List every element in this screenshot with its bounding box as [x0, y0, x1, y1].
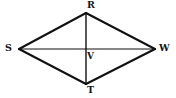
vertex-label-r: R	[87, 0, 95, 10]
vertex-label-w: W	[159, 43, 170, 53]
geometry-figure-canvas: R S W T V	[0, 0, 176, 98]
vertex-label-s: S	[5, 43, 12, 53]
vertex-label-t: T	[87, 85, 94, 95]
vertex-label-v: V	[87, 51, 94, 61]
